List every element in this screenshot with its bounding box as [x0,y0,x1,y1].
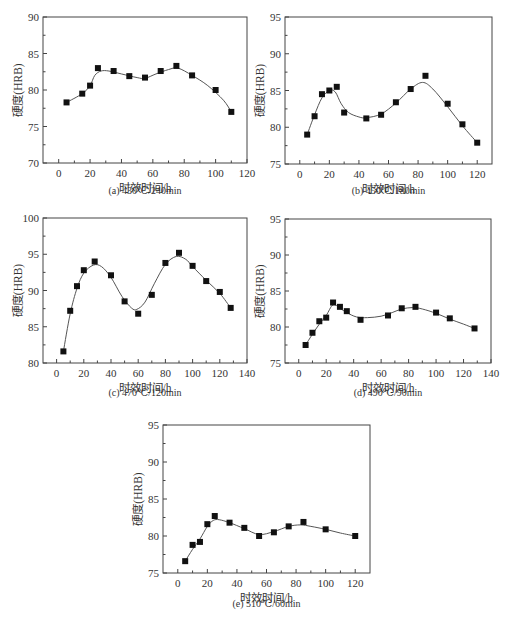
y-tick-label: 70 [28,157,40,169]
plot-frame [163,425,370,573]
data-point-marker [474,140,480,146]
chart-svg-d: 7580859095020406080100120140时效时间/h硬度(HRB… [242,202,509,406]
x-tick-label: 80 [179,167,191,179]
data-point-marker [363,115,369,121]
y-tick-label: 95 [28,248,40,260]
y-tick-label: 80 [270,321,282,333]
x-tick-label: 20 [202,577,214,589]
data-point-marker [182,558,188,564]
data-point-marker [111,68,117,74]
data-point-marker [95,65,101,71]
y-tick-label: 90 [28,11,40,23]
fit-curve [307,82,477,142]
chart-caption: (d) 490℃/90min [354,387,423,399]
x-tick-label: 100 [439,168,456,180]
data-point-marker [190,263,196,269]
data-point-marker [459,121,465,127]
data-point-marker [162,260,168,266]
y-tick-label: 80 [28,84,40,96]
data-point-marker [445,101,451,107]
x-tick-label: 0 [54,367,60,379]
chart-panel-b: 7580859095020406080100120时效时间/h硬度(HRB)(b… [242,0,509,204]
data-point-marker [87,83,93,89]
data-point-marker [158,68,164,74]
x-tick-label: 140 [483,367,500,379]
data-point-marker [352,533,358,539]
data-point-marker [122,298,128,304]
data-point-marker [422,73,428,79]
fit-curve [306,304,475,345]
data-point-marker [203,278,209,284]
x-tick-label: 40 [106,367,118,379]
data-point-marker [330,300,336,306]
y-tick-label: 85 [28,321,40,333]
data-point-marker [189,72,195,78]
data-point-marker [337,304,343,310]
fit-curve [67,68,232,112]
data-point-marker [79,91,85,97]
x-tick-label: 0 [296,367,302,379]
y-tick-label: 80 [270,121,282,133]
data-point-marker [149,292,155,298]
fit-curve [185,519,355,561]
y-tick-label: 90 [270,48,282,60]
data-point-marker [213,87,219,93]
x-tick-label: 40 [231,577,243,589]
x-tick-label: 60 [261,577,273,589]
y-tick-label: 90 [148,456,160,468]
data-point-marker [304,132,310,138]
data-point-marker [344,308,350,314]
chart-panel-e: 7580859095020406080100120时效时间/h硬度(HRB)(e… [120,408,390,617]
data-point-marker [142,75,148,81]
data-point-marker [412,304,418,310]
y-tick-label: 95 [270,213,282,225]
data-point-marker [472,325,478,331]
x-tick-label: 120 [455,367,472,379]
chart-caption: (e) 510℃/60min [232,598,300,610]
data-point-marker [228,109,234,115]
data-point-marker [393,99,399,105]
data-point-marker [92,259,98,265]
data-point-marker [408,86,414,92]
data-point-marker [197,539,203,545]
data-point-marker [341,110,347,116]
chart-panel-c: 80859095100020406080100120140时效时间/h硬度(HR… [0,201,267,406]
x-tick-label: 80 [403,367,415,379]
y-tick-label: 90 [270,249,282,261]
data-point-marker [176,250,182,256]
y-tick-label: 75 [270,158,282,170]
x-tick-label: 120 [347,577,364,589]
data-point-marker [173,63,179,69]
y-tick-label: 95 [270,11,282,23]
fit-curve [63,256,230,351]
chart-caption: (a) 430℃/240min [108,185,181,197]
data-point-marker [312,113,318,119]
x-tick-label: 120 [469,168,486,180]
x-tick-label: 100 [317,577,334,589]
data-point-marker [326,88,332,94]
x-tick-label: 100 [184,367,201,379]
y-tick-label: 75 [270,357,282,369]
data-point-marker [323,526,329,532]
data-point-marker [303,342,309,348]
chart-svg-e: 7580859095020406080100120时效时间/h硬度(HRB)(e… [120,408,390,617]
y-tick-label: 80 [148,530,160,542]
x-tick-label: 60 [133,367,145,379]
y-tick-label: 90 [28,285,40,297]
chart-svg-b: 7580859095020406080100120时效时间/h硬度(HRB)(b… [242,0,509,204]
chart-svg-a: 7075808590020406080100120时效时间/h硬度(HRB)(a… [0,0,267,204]
data-point-marker [286,523,292,529]
data-point-marker [385,312,391,318]
data-point-marker [309,330,315,336]
chart-panel-a: 7075808590020406080100120时效时间/h硬度(HRB)(a… [0,0,267,204]
plot-frame [285,219,491,363]
data-point-marker [204,521,210,527]
chart-caption: (c) 470℃/120min [108,387,181,399]
data-point-marker [135,311,141,317]
y-tick-label: 80 [28,357,40,369]
x-tick-label: 60 [383,168,395,180]
data-point-marker [300,519,306,525]
data-point-marker [190,542,196,548]
data-point-marker [399,305,405,311]
y-axis-label: 硬度(HRB) [253,264,267,317]
